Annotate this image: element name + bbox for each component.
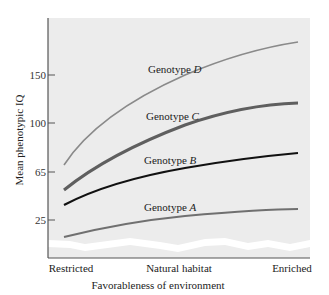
y-tick-label: 100 — [30, 117, 47, 129]
x-label-restricted: Restricted — [49, 262, 94, 274]
y-tick-label: 25 — [35, 214, 47, 226]
y-tick-label: 65 — [35, 166, 47, 178]
x-label-natural-habitat: Natural habitat — [146, 262, 212, 274]
y-axis-title: Mean phenotypic IQ — [13, 94, 25, 185]
iq-genotype-chart: 150 100 65 25 Genotype D Genotype C Geno… — [0, 0, 329, 295]
label-genotype-c: Genotype C — [146, 110, 200, 122]
y-tick-label: 150 — [30, 69, 47, 81]
label-genotype-d: Genotype D — [148, 63, 202, 75]
x-axis-title: Favorableness of environment — [91, 279, 224, 291]
x-label-enriched: Enriched — [272, 262, 312, 274]
label-genotype-b: Genotype B — [144, 154, 197, 166]
label-genotype-a: Genotype A — [144, 201, 197, 213]
